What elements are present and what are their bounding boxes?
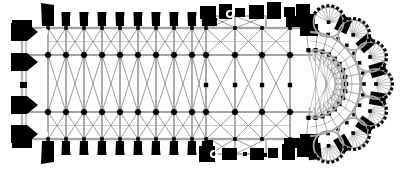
ambulatory-pier	[362, 82, 366, 86]
chapel-centre-pier	[374, 82, 378, 86]
nave-buttress-north	[169, 12, 178, 26]
chapel-outer-tooth	[372, 125, 376, 129]
chapel-outer-tooth	[368, 131, 371, 134]
transept-facade-mass	[200, 6, 216, 19]
nave-buttress-north	[115, 12, 124, 26]
pier	[64, 26, 68, 30]
nave-buttress-south	[79, 141, 88, 155]
chapel-outer-tooth	[353, 148, 356, 151]
nave-corner-buttress	[41, 141, 54, 164]
chapel-outer-tooth	[343, 146, 346, 149]
chapel-outer-tooth	[368, 34, 371, 37]
transept-facade-mass	[250, 148, 264, 160]
chapel-outer-tooth	[326, 161, 329, 164]
floor-plan-canvas	[0, 0, 406, 170]
pier	[136, 26, 140, 30]
pier	[288, 83, 292, 87]
pier	[118, 26, 122, 30]
pier	[100, 26, 104, 30]
transept-facade-mass	[267, 2, 281, 19]
chapel-outer-tooth	[348, 147, 352, 151]
transept-facade-mass	[199, 146, 215, 162]
west-front-salient	[11, 53, 16, 71]
pier	[172, 137, 176, 141]
pier	[154, 26, 158, 30]
pier	[190, 26, 194, 30]
cathedral-floor-plan-drawing	[0, 0, 406, 170]
nave-buttress-north	[187, 12, 196, 26]
nave-buttress-south	[169, 141, 178, 155]
pier	[260, 137, 264, 141]
transept-detached-pier	[263, 153, 267, 157]
nave-buttress-south	[187, 141, 196, 155]
transept-facade-mass	[205, 140, 213, 147]
chapel-outer-tooth	[326, 4, 329, 7]
chapel-centre-pier	[327, 20, 331, 24]
pier	[154, 137, 158, 141]
nave-buttress-north	[133, 12, 142, 26]
apse-pier	[306, 48, 310, 52]
chapel-centre-pier	[351, 131, 355, 135]
ambulatory-pier	[358, 103, 362, 107]
north-tower-block	[12, 20, 32, 29]
pier	[82, 137, 86, 141]
pier	[204, 83, 208, 87]
pier	[46, 137, 50, 141]
chapel-outer-tooth	[348, 17, 352, 21]
nave-corner-buttress	[41, 3, 54, 26]
pier	[204, 26, 208, 30]
pier	[172, 26, 176, 30]
nave-buttress-south	[61, 141, 70, 155]
nave-buttress-north	[79, 12, 88, 26]
chapel-outer-tooth	[385, 58, 388, 61]
chapel-centre-pier	[351, 33, 355, 37]
nave-buttress-south	[115, 141, 124, 155]
pier	[190, 137, 194, 141]
nave-buttress-north	[97, 12, 106, 26]
transept-detached-pier	[243, 152, 247, 156]
nave-buttress-south	[97, 141, 106, 155]
transept-facade-mass	[249, 5, 264, 19]
nave-buttress-south	[151, 141, 160, 155]
west-portal-pier	[20, 82, 27, 88]
chapel-outer-tooth	[353, 17, 356, 20]
pier	[100, 137, 104, 141]
chapel-centre-pier	[327, 144, 331, 148]
chapel-outer-tooth	[385, 112, 388, 115]
pier	[233, 83, 237, 87]
nave-buttress-south	[133, 141, 142, 155]
chapel-centre-pier	[368, 55, 372, 59]
chapel-outer-tooth	[385, 106, 388, 109]
transept-facade-mass	[284, 7, 295, 17]
west-front-salient	[11, 96, 16, 114]
apse-pier	[306, 116, 310, 120]
pier	[233, 26, 237, 30]
pier	[136, 137, 140, 141]
nave-buttress-north	[151, 12, 160, 26]
pier	[118, 137, 122, 141]
ambulatory-pier	[358, 61, 362, 65]
chapel-outer-tooth	[367, 39, 370, 42]
nave-buttress-north	[61, 12, 70, 26]
chapel-centre-pier	[368, 109, 372, 113]
transept-facade-mass	[235, 8, 245, 17]
pier	[82, 26, 86, 30]
chapel-outer-tooth	[372, 39, 376, 43]
south-tower-block	[12, 139, 32, 148]
pier	[260, 26, 264, 30]
pier	[233, 137, 237, 141]
transept-facade-mass	[222, 148, 237, 160]
chapel-outer-tooth	[385, 53, 388, 56]
chapel-outer-tooth	[391, 83, 394, 86]
pier	[260, 83, 264, 87]
pier	[64, 137, 68, 141]
transept-facade-mass	[268, 148, 278, 158]
transept-facade-mass	[208, 18, 217, 26]
